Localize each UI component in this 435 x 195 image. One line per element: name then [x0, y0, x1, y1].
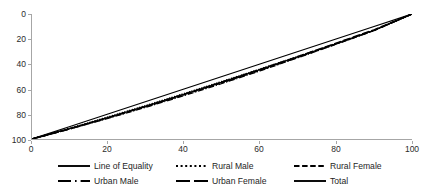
series-line-of-equality — [32, 14, 412, 139]
y-tick-label-100: 0 — [4, 10, 26, 19]
legend-label: Rural Male — [212, 161, 254, 171]
legend-item-total[interactable]: Total — [293, 173, 411, 189]
x-tick-label-100: 100 — [399, 145, 425, 154]
legend-label: Urban Male — [94, 176, 138, 186]
x-tick-label-40: 40 — [170, 145, 196, 154]
legend-swatch-dashed-icon — [293, 161, 327, 171]
legend-item-urban-male[interactable]: Urban Male — [57, 173, 175, 189]
y-tick-label-0: 100 — [4, 136, 26, 145]
plot-area — [31, 14, 412, 140]
legend-swatch-dotted-icon — [175, 161, 209, 171]
y-tick-label-80: 20 — [4, 35, 26, 44]
plot-container: 0 20 40 60 80 100 0 20 40 60 80 — [0, 0, 435, 158]
series-canvas — [32, 14, 412, 139]
legend-row-2: Urban Male Urban Female Total — [57, 173, 429, 189]
legend-swatch-solid-icon — [293, 176, 327, 186]
y-tick-label-40: 60 — [4, 86, 26, 95]
legend-label: Rural Female — [330, 161, 382, 171]
chart-legend: Line of Equality Rural Male Rural Female — [0, 156, 435, 195]
y-tick-label-20: 80 — [4, 111, 26, 120]
legend-swatch-dash-dot-icon — [57, 176, 91, 186]
x-tick-label-0: 0 — [18, 145, 44, 154]
x-tick-label-80: 80 — [323, 145, 349, 154]
legend-item-rural-female[interactable]: Rural Female — [293, 158, 411, 174]
legend-label: Total — [330, 176, 348, 186]
lorenz-curve-chart: 0 20 40 60 80 100 0 20 40 60 80 — [0, 0, 435, 195]
x-tick-label-60: 60 — [246, 145, 272, 154]
legend-item-urban-female[interactable]: Urban Female — [175, 173, 293, 189]
legend-label: Line of Equality — [94, 161, 153, 171]
legend-item-line-of-equality[interactable]: Line of Equality — [57, 158, 175, 174]
legend-row-1: Line of Equality Rural Male Rural Female — [57, 158, 429, 174]
y-tick-label-60: 40 — [4, 60, 26, 69]
legend-item-rural-male[interactable]: Rural Male — [175, 158, 293, 174]
legend-swatch-long-dash-icon — [175, 176, 209, 186]
legend-label: Urban Female — [212, 176, 266, 186]
legend-swatch-solid-icon — [57, 161, 91, 171]
x-tick-label-20: 20 — [94, 145, 120, 154]
